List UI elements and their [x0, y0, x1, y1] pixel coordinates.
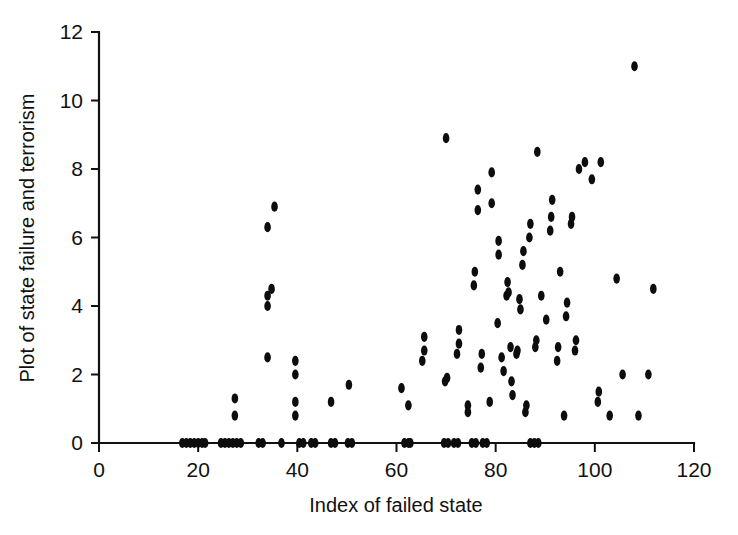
data-point	[456, 339, 463, 349]
x-tick-label: 20	[186, 458, 209, 481]
data-point	[421, 332, 428, 342]
x-tick-label: 100	[577, 458, 612, 481]
data-point	[475, 205, 482, 215]
data-point	[398, 383, 405, 393]
data-point	[596, 387, 603, 397]
data-point	[514, 345, 521, 355]
data-point	[238, 438, 245, 448]
data-point	[477, 363, 484, 373]
data-point	[421, 345, 428, 355]
data-point	[509, 390, 516, 400]
data-point	[606, 411, 613, 421]
tick-group	[91, 32, 694, 452]
y-tick-label: 2	[71, 363, 83, 386]
data-point	[473, 438, 480, 448]
x-tick-label: 0	[93, 458, 105, 481]
data-point	[232, 411, 239, 421]
data-point	[549, 195, 556, 205]
data-point	[488, 198, 495, 208]
data-point	[346, 380, 353, 390]
axis-group	[99, 32, 694, 443]
data-point	[619, 369, 626, 379]
data-point	[292, 356, 299, 366]
data-point	[547, 226, 554, 236]
y-tick-label: 12	[60, 20, 83, 43]
data-point	[407, 438, 414, 448]
data-point	[564, 297, 571, 307]
data-point	[495, 250, 502, 260]
x-tick-label: 40	[286, 458, 309, 481]
data-point	[472, 267, 479, 277]
data-point	[264, 222, 271, 232]
data-point	[264, 352, 271, 362]
data-point	[508, 376, 515, 386]
data-point	[561, 411, 568, 421]
data-point	[569, 212, 576, 222]
data-point	[292, 397, 299, 407]
data-points-group	[179, 61, 657, 448]
data-point	[516, 294, 523, 304]
data-point	[444, 373, 451, 383]
data-point	[635, 411, 642, 421]
data-point	[332, 438, 339, 448]
data-point	[563, 311, 570, 321]
scatter-plot: 024681012020406080100120 Index of failed…	[0, 0, 738, 535]
data-point	[445, 438, 452, 448]
y-tick-label: 8	[71, 157, 83, 180]
data-point	[597, 157, 604, 167]
data-point	[465, 407, 472, 417]
data-point	[278, 438, 285, 448]
data-point	[495, 236, 502, 246]
data-point	[259, 438, 266, 448]
data-point	[494, 318, 501, 328]
data-point	[555, 342, 562, 352]
data-point	[519, 260, 526, 270]
data-point	[595, 397, 602, 407]
data-point	[488, 167, 495, 177]
data-point	[454, 349, 461, 359]
data-point	[526, 232, 533, 242]
data-point	[475, 184, 482, 194]
data-point	[572, 345, 579, 355]
data-point	[557, 267, 564, 277]
data-point	[456, 325, 463, 335]
y-tick-label: 10	[60, 89, 83, 112]
data-point	[631, 61, 638, 71]
x-tick-label: 120	[676, 458, 711, 481]
chart-page: 024681012020406080100120 Index of failed…	[0, 0, 738, 535]
data-point	[471, 280, 478, 290]
data-point	[504, 277, 511, 287]
data-point	[455, 438, 462, 448]
data-point	[292, 411, 299, 421]
data-point	[613, 274, 620, 284]
data-point	[645, 369, 652, 379]
data-point	[232, 393, 239, 403]
x-tick-label: 80	[484, 458, 507, 481]
tick-label-group: 024681012020406080100120	[60, 20, 712, 481]
data-point	[300, 438, 307, 448]
data-point	[312, 438, 319, 448]
y-axis-title: Plot of state failure and terrorism	[16, 93, 38, 382]
data-point	[486, 397, 493, 407]
data-point	[535, 438, 542, 448]
data-point	[443, 133, 450, 143]
data-point	[292, 369, 299, 379]
data-point	[554, 356, 561, 366]
data-point	[538, 291, 545, 301]
data-point	[517, 304, 524, 314]
data-point	[527, 219, 534, 229]
data-point	[202, 438, 209, 448]
x-axis-title: Index of failed state	[309, 494, 482, 516]
y-tick-label: 0	[71, 431, 83, 454]
data-point	[548, 212, 555, 222]
data-point	[543, 315, 550, 325]
data-point	[483, 438, 490, 448]
data-point	[405, 400, 412, 410]
data-point	[264, 301, 271, 311]
data-point	[505, 287, 512, 297]
data-point	[498, 352, 505, 362]
data-point	[573, 335, 580, 345]
data-point	[589, 174, 596, 184]
data-point	[507, 342, 514, 352]
data-point	[349, 438, 356, 448]
